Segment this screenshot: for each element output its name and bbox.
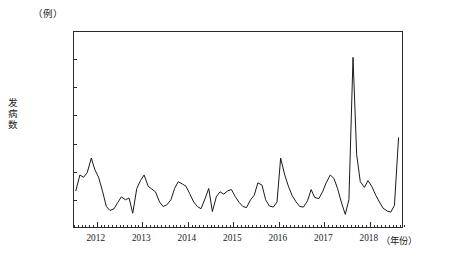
x-axis-minor-tick	[260, 225, 261, 228]
x-axis-minor-tick	[290, 225, 291, 228]
x-axis-minor-tick	[336, 225, 337, 228]
x-axis-minor-tick	[305, 225, 306, 228]
x-axis-minor-tick	[298, 225, 299, 228]
x-axis-minor-tick	[89, 225, 90, 228]
x-axis-minor-tick	[355, 225, 356, 228]
x-axis-minor-tick	[309, 225, 310, 228]
x-axis-major-tick	[97, 222, 98, 227]
x-axis-minor-tick	[214, 225, 215, 228]
x-axis-minor-tick	[150, 225, 151, 228]
x-axis-minor-tick	[404, 225, 405, 228]
x-axis-minor-tick	[286, 225, 287, 228]
x-axis-minor-tick	[176, 225, 177, 228]
x-axis-major-tick	[370, 222, 371, 227]
x-axis-tick-label: 2014	[177, 233, 196, 243]
x-axis-minor-tick	[381, 225, 382, 228]
x-axis-minor-tick	[366, 225, 367, 228]
x-axis-minor-tick	[271, 225, 272, 228]
x-axis-tick-label: 2012	[86, 233, 105, 243]
x-axis-minor-tick	[116, 225, 117, 228]
x-axis-minor-tick	[138, 225, 139, 228]
series-line-发病数	[76, 57, 399, 214]
x-axis-tick-label: 2015	[223, 233, 242, 243]
x-axis-minor-tick	[294, 225, 295, 228]
x-axis-minor-tick	[184, 225, 185, 228]
x-axis-minor-tick	[161, 225, 162, 228]
x-axis-minor-tick	[267, 225, 268, 228]
plot-area	[73, 31, 403, 228]
x-axis-minor-tick	[241, 225, 242, 228]
x-axis-tick-label: 2013	[132, 233, 151, 243]
x-axis-tick-label-group: 2012201320142015201620172018（年份）	[0, 233, 449, 249]
x-axis-minor-tick	[108, 225, 109, 228]
x-axis-minor-tick	[120, 225, 121, 228]
figure-caption	[0, 256, 449, 263]
line-series-svg	[74, 32, 404, 229]
y-axis-tick-mark	[73, 115, 77, 116]
x-axis-minor-tick	[389, 225, 390, 228]
y-axis-tick-mark	[73, 87, 77, 88]
x-axis-minor-tick	[400, 225, 401, 228]
x-axis-minor-tick	[393, 225, 394, 228]
x-axis-minor-tick	[321, 225, 322, 228]
x-axis-minor-tick	[195, 225, 196, 228]
x-axis-minor-tick	[313, 225, 314, 228]
x-axis-minor-tick	[377, 225, 378, 228]
x-axis-minor-tick	[218, 225, 219, 228]
x-axis-tick-label: 2018	[360, 233, 379, 243]
x-axis-minor-tick	[256, 225, 257, 228]
x-axis-minor-tick	[199, 225, 200, 228]
x-axis-minor-tick	[74, 225, 75, 228]
x-axis-minor-tick	[101, 225, 102, 228]
x-axis-minor-tick	[203, 225, 204, 228]
x-axis-minor-tick	[222, 225, 223, 228]
x-axis-minor-tick	[165, 225, 166, 228]
x-axis-minor-tick	[340, 225, 341, 228]
x-axis-major-tick	[188, 222, 189, 227]
x-axis-minor-tick	[245, 225, 246, 228]
x-axis-major-tick	[233, 222, 234, 227]
x-axis-minor-tick	[396, 225, 397, 228]
x-axis-minor-tick	[93, 225, 94, 228]
x-axis-minor-tick	[82, 225, 83, 228]
x-axis-minor-tick	[351, 225, 352, 228]
y-axis-tick-label-group: 100 000150 000200 000250 000300 000350 0…	[0, 0, 70, 263]
x-axis-minor-tick	[226, 225, 227, 228]
x-axis-minor-tick	[264, 225, 265, 228]
x-axis-major-tick	[142, 222, 143, 227]
x-axis-minor-tick	[173, 225, 174, 228]
x-axis-minor-tick	[123, 225, 124, 228]
x-axis-minor-tick	[343, 225, 344, 228]
x-axis-minor-tick	[317, 225, 318, 228]
x-axis-minor-tick	[157, 225, 158, 228]
y-axis-tick-mark	[73, 200, 77, 201]
x-axis-minor-tick	[385, 225, 386, 228]
x-axis-minor-tick	[248, 225, 249, 228]
x-axis-minor-tick	[374, 225, 375, 228]
x-axis-minor-tick	[211, 225, 212, 228]
x-axis-tick-label: 2016	[269, 233, 288, 243]
y-axis-tick-mark	[73, 172, 77, 173]
x-axis-minor-tick	[347, 225, 348, 228]
y-axis-tick-mark	[73, 144, 77, 145]
x-axis-minor-tick	[230, 225, 231, 228]
x-axis-minor-tick	[112, 225, 113, 228]
x-axis-minor-tick	[252, 225, 253, 228]
x-axis-minor-tick	[332, 225, 333, 228]
x-axis-minor-tick	[169, 225, 170, 228]
x-axis-minor-tick	[78, 225, 79, 228]
x-axis-minor-tick	[146, 225, 147, 228]
x-axis-major-tick	[279, 222, 280, 227]
figure-container: （例） 发病数 100 000150 000200 000250 000300 …	[0, 0, 449, 263]
x-axis-minor-tick	[85, 225, 86, 228]
x-axis-minor-tick	[104, 225, 105, 228]
y-axis-tick-mark	[73, 59, 77, 60]
x-axis-tick-label: 2017	[314, 233, 333, 243]
x-axis-minor-tick	[135, 225, 136, 228]
x-axis-minor-tick	[131, 225, 132, 228]
x-axis-minor-tick	[275, 225, 276, 228]
x-axis-title: （年份）	[381, 233, 417, 247]
x-axis-minor-tick	[358, 225, 359, 228]
x-axis-minor-tick	[362, 225, 363, 228]
x-axis-minor-tick	[302, 225, 303, 228]
